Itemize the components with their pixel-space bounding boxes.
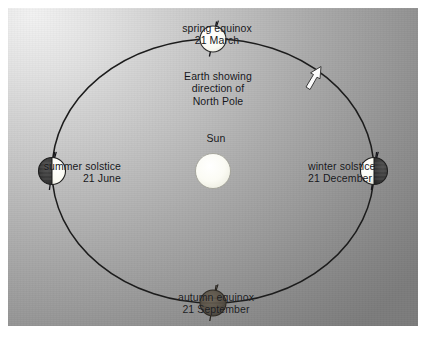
label-summer-solstice: summer solstice 21 June <box>13 160 121 185</box>
annotation-line-2: direction of <box>138 82 298 94</box>
label-summer-solstice-name: summer solstice <box>44 160 121 172</box>
label-sun: Sun <box>186 132 246 144</box>
label-winter-solstice: winter solstice 21 December <box>308 160 418 185</box>
label-north-pole-annotation: Earth showing direction of North Pole <box>138 70 298 107</box>
sun-body <box>196 154 231 189</box>
label-winter-solstice-name: winter solstice <box>308 160 375 172</box>
label-autumn-equinox: autumn equinox 21 September <box>136 291 296 316</box>
annotation-line-3: North Pole <box>138 95 298 107</box>
label-spring-equinox: spring equinox 21 March <box>142 22 292 47</box>
orbit-direction-arrow <box>306 67 321 90</box>
label-spring-equinox-date: 21 March <box>142 34 292 46</box>
label-autumn-equinox-date: 21 September <box>136 303 296 315</box>
diagram-panel: spring equinox 21 March Earth showing di… <box>8 8 418 326</box>
annotation-line-1: Earth showing <box>184 70 252 82</box>
label-winter-solstice-date: 21 December <box>308 172 418 184</box>
seasons-diagram-figure: spring equinox 21 March Earth showing di… <box>0 0 428 344</box>
label-summer-solstice-date: 21 June <box>13 172 121 184</box>
diagram-scene: spring equinox 21 March Earth showing di… <box>8 8 418 326</box>
label-autumn-equinox-name: autumn equinox <box>178 291 254 303</box>
label-spring-equinox-name: spring equinox <box>182 22 252 34</box>
